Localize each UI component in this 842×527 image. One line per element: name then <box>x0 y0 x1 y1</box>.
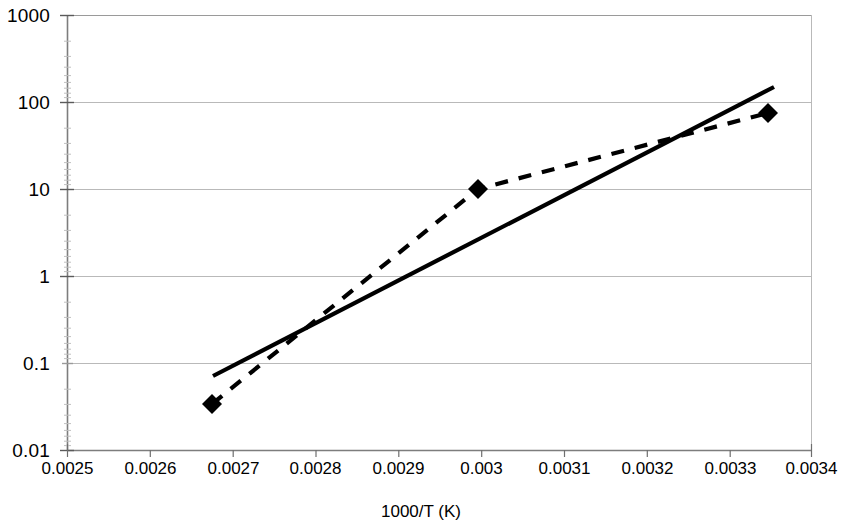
y-axis-tick-label: 0.1 <box>0 354 50 373</box>
y-axis-tick-label: 0.01 <box>0 441 50 460</box>
plot-area-svg <box>0 0 842 527</box>
x-axis-title: 1000/T (K) <box>0 502 842 521</box>
x-axis-tick-label: 0.0034 <box>761 460 842 477</box>
y-axis-tick-label: 1 <box>0 267 50 286</box>
y-axis-tick-label: 1000 <box>0 6 50 25</box>
arrhenius-chart: 1000 100 10 1 0.1 0.01 0.0025 0.0026 0.0… <box>0 0 842 527</box>
y-axis-tick-label: 10 <box>0 180 50 199</box>
y-axis-tick-label: 100 <box>0 93 50 112</box>
plot-background <box>67 15 812 450</box>
